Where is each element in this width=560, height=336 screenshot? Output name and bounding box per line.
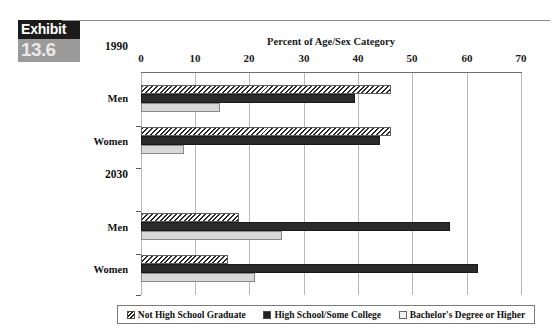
legend-swatch-light-icon [399,311,407,319]
category-label-1990-women: Women [62,136,128,147]
legend-item-bachelors-plus: Bachelor's Degree or Higher [399,310,525,320]
gridline-60 [467,73,468,295]
group-label-1990: 1990 [62,40,128,52]
x-tick-label-50: 50 [397,52,427,64]
x-tick-label-30: 30 [289,52,319,64]
legend-label-bachelors-plus: Bachelor's Degree or Higher [410,310,525,320]
x-tick-label-40: 40 [343,52,373,64]
bar-1990-women-hs-some-college [141,136,380,145]
gridline-40 [358,73,359,295]
bar-2030-men-not-hs-grad [141,213,239,222]
legend-item-not-hs-grad: Not High School Graduate [127,310,246,320]
group-label-2030: 2030 [62,168,128,180]
bar-2030-women-not-hs-grad [141,255,228,264]
gridline-30 [304,73,305,295]
gridline-70 [521,73,522,295]
x-tick-label-70: 70 [506,52,536,64]
bar-2030-men-bachelors-plus [141,231,282,240]
y-tick-4 [136,295,141,296]
legend-swatch-hatched-icon [127,311,135,319]
category-label-1990-men: Men [62,93,128,104]
chart-legend: Not High School Graduate High School/Som… [117,305,535,324]
category-label-2030-women: Women [62,264,128,275]
bar-2030-women-hs-some-college [141,264,478,273]
legend-label-not-hs-grad: Not High School Graduate [138,310,246,320]
gridline-20 [249,73,250,295]
bar-1990-men-bachelors-plus [141,103,220,112]
bar-1990-men-not-hs-grad [141,85,391,94]
bar-1990-women-bachelors-plus [141,145,184,154]
bar-2030-men-hs-some-college [141,222,450,231]
plot-area [141,73,521,295]
x-tick-label-0: 0 [126,52,156,64]
bar-1990-women-not-hs-grad [141,127,391,136]
legend-item-hs-some-college: High School/Some College [263,310,381,320]
x-tick-label-10: 10 [180,52,210,64]
bar-1990-men-hs-some-college [141,94,355,103]
gridline-50 [412,73,413,295]
legend-swatch-dark-icon [263,311,271,319]
chart-axis-title: Percent of Age/Sex Category [141,36,521,47]
legend-label-hs-some-college: High School/Some College [274,310,381,320]
x-tick-label-20: 20 [234,52,264,64]
bar-chart: Percent of Age/Sex Category 1990 2030 0 … [0,0,560,336]
bar-2030-women-bachelors-plus [141,273,255,282]
category-label-2030-men: Men [62,222,128,233]
x-tick-label-60: 60 [452,52,482,64]
